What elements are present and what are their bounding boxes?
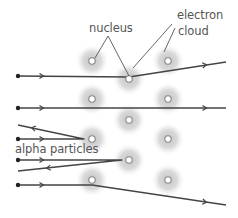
nucleus-icon xyxy=(165,58,171,64)
nucleus-icon xyxy=(126,117,132,123)
nucleus-icon xyxy=(165,177,171,183)
nucleus-icon xyxy=(165,96,171,102)
electron-cloud-label-line1: electron xyxy=(177,9,223,21)
nucleus-icon xyxy=(126,76,132,82)
particle-source-dot xyxy=(16,183,20,187)
nucleus-icon xyxy=(89,177,95,183)
particle-source-dot xyxy=(16,137,20,141)
nucleus-icon xyxy=(165,136,171,142)
alpha-particles-label: alpha particles xyxy=(15,143,98,155)
alpha-path-reflected-back-lower xyxy=(16,157,122,171)
alpha-path-reflected-back-upper xyxy=(16,125,84,142)
rutherford-scattering-diagram: nucleus electron cloud alpha particles xyxy=(0,0,238,218)
nucleus-icon xyxy=(89,58,95,64)
nucleus-icon xyxy=(126,157,132,163)
particle-source-dot xyxy=(16,158,20,162)
nucleus-icon xyxy=(89,96,95,102)
particle-source-dot xyxy=(16,74,20,78)
alpha-path-deflected-down xyxy=(16,182,226,205)
electron-cloud-label-line2: cloud xyxy=(178,25,209,37)
nucleus-label: nucleus xyxy=(89,22,133,34)
particle-source-dot xyxy=(16,106,20,110)
